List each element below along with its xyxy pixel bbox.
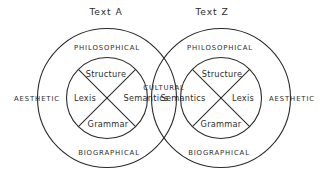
title-text-a: Text A <box>88 6 122 17</box>
right-ring-label-philosophical: PHILOSOPHICAL <box>187 44 253 52</box>
left-ring-label-biographical: BIOGRAPHICAL <box>78 149 140 157</box>
intersection-label-cultural: CULTURAL <box>143 84 184 92</box>
left-sector-lexis: Lexis <box>74 93 96 103</box>
left-ring-label-aesthetic: AESTHETIC <box>14 95 60 103</box>
venn-diagram: Text A Text Z PHILOSOPHICAL AESTHETIC BI… <box>0 0 328 178</box>
left-sector-grammar: Grammar <box>88 119 129 129</box>
right-sector-grammar: Grammar <box>201 119 242 129</box>
right-ring-label-aesthetic: AESTHETIC <box>269 95 315 103</box>
left-ring-label-philosophical: PHILOSOPHICAL <box>74 44 140 52</box>
left-sector-structure: Structure <box>86 69 126 79</box>
title-text-z: Text Z <box>194 6 228 17</box>
right-sector-structure: Structure <box>202 69 242 79</box>
right-sector-semantics: Semantics <box>161 93 206 103</box>
venn-diagram-canvas: Text A Text Z PHILOSOPHICAL AESTHETIC BI… <box>0 0 328 178</box>
right-sector-lexis: Lexis <box>232 93 254 103</box>
right-ring-label-biographical: BIOGRAPHICAL <box>188 149 250 157</box>
